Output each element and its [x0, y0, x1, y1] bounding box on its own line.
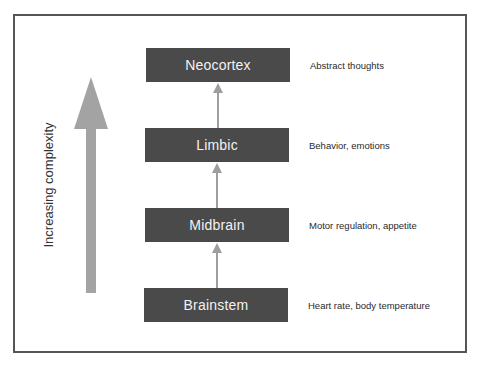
- connector-arrow-brainstem-midbrain: [212, 243, 222, 288]
- level-box-brainstem: Brainstem: [144, 288, 288, 322]
- connector-arrow-midbrain-limbic: [212, 163, 222, 208]
- level-description-neocortex: Abstract thoughts: [310, 60, 384, 71]
- level-box-neocortex: Neocortex: [146, 48, 290, 82]
- level-box-midbrain: Midbrain: [145, 208, 289, 242]
- complexity-axis-label: Increasing complexity: [41, 123, 56, 248]
- level-description-limbic: Behavior, emotions: [309, 140, 390, 151]
- connector-arrow-limbic-neocortex: [213, 83, 223, 128]
- level-box-limbic: Limbic: [145, 128, 289, 162]
- complexity-arrow-icon: [74, 77, 108, 293]
- level-description-midbrain: Motor regulation, appetite: [309, 220, 417, 231]
- level-description-brainstem: Heart rate, body temperature: [308, 300, 430, 311]
